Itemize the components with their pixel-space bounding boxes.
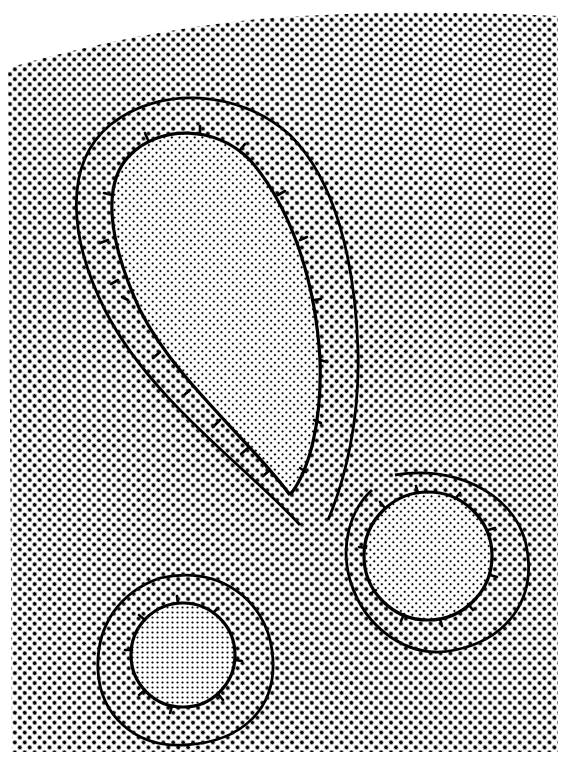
halftone-figure	[0, 0, 578, 767]
